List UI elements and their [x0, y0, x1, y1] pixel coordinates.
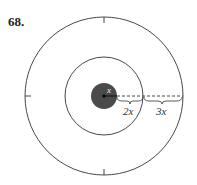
brace-3x: [144, 97, 182, 104]
label-x: x: [106, 85, 111, 95]
target-diagram: x 2x 3x: [0, 0, 197, 185]
brace-2x: [117, 97, 143, 104]
label-3x: 3x: [155, 105, 167, 117]
label-2x: 2x: [123, 105, 134, 117]
